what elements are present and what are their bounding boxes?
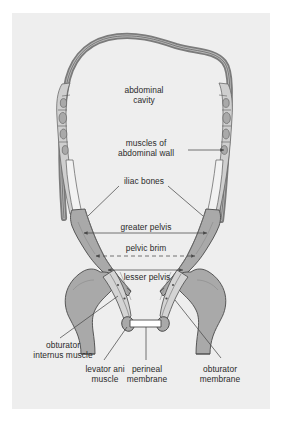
leader-iliac-right — [168, 186, 203, 216]
leader-iliac-left — [88, 186, 119, 216]
right-abdominal-wall-muscles — [207, 83, 232, 216]
label-obturator-internus-muscle: obturator internus muscle — [19, 340, 107, 361]
figure-root: abdominal cavity muscles of abdominal wa… — [0, 0, 282, 423]
label-lesser-pelvis: lesser pelvis — [113, 272, 181, 282]
label-muscles-of-abdominal-wall: muscles of abdominal wall — [104, 138, 188, 159]
abdominal-wall-band — [62, 36, 230, 220]
perineal-membrane-shape — [130, 320, 161, 327]
label-iliac-bones: iliac bones — [113, 176, 175, 186]
label-obturator-membrane: obturator membrane — [186, 364, 254, 385]
label-abdominal-cavity: abdominal cavity — [106, 85, 182, 106]
label-perineal-membrane: perineal membrane — [117, 364, 177, 385]
label-pelvic-brim: pelvic brim — [113, 243, 179, 253]
leader-levator-ani — [104, 327, 127, 360]
label-greater-pelvis: greater pelvis — [109, 222, 183, 232]
